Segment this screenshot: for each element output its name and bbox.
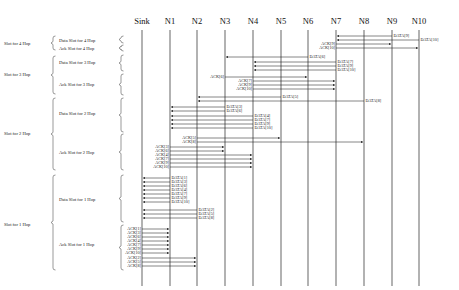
lifelines xyxy=(142,30,419,286)
message-label: ACK[8] xyxy=(182,139,196,144)
message-label: DATA[6] xyxy=(310,54,326,59)
message-label: DATA[6] xyxy=(227,108,243,113)
message-label: DATA[9] xyxy=(394,33,410,38)
brace-icon xyxy=(119,36,124,43)
brace-icon xyxy=(119,98,124,132)
node-label-sink: Sink xyxy=(134,16,150,26)
message-label: DATA[5] xyxy=(283,94,299,99)
brace-icon xyxy=(51,36,56,50)
node-label-n5: N5 xyxy=(276,16,286,26)
slot-label: Data Slot for 4 Hop xyxy=(59,38,96,43)
brace-icon xyxy=(119,45,124,51)
node-label-n9: N9 xyxy=(387,16,397,26)
message-label: ACK[10] xyxy=(319,45,335,50)
slot-group-label: Slot for 1 Hop xyxy=(4,222,31,227)
brace-icon xyxy=(119,74,124,95)
slot-label: Ack Slot for 1 Hop xyxy=(59,242,95,247)
message-label: DATA[10] xyxy=(338,67,356,72)
brace-icon xyxy=(119,175,124,222)
node-label-n4: N4 xyxy=(248,16,259,26)
slot-group-label: Slot for 3 Hop xyxy=(4,72,31,77)
slot-label: Data Slot for 1 Hop xyxy=(59,197,96,202)
slot-group-label: Slot for 4 Hop xyxy=(4,41,31,46)
brace-icon xyxy=(119,134,124,170)
sequence-diagram: SinkN1N2N3N4N5N6N7N8N9N10 Slot for 4 Hop… xyxy=(0,0,459,290)
brace-icon xyxy=(51,98,56,170)
slot-label: Ack Slot for 4 Hop xyxy=(59,46,95,51)
slot-label: Ack Slot for 3 Hop xyxy=(59,82,95,87)
brace-icon xyxy=(51,56,56,94)
message-label: ACK[10] xyxy=(153,164,169,169)
node-label-n2: N2 xyxy=(192,16,202,26)
node-label-n10: N10 xyxy=(412,16,427,26)
message-label: DATA[10] xyxy=(421,37,439,42)
node-label-n8: N8 xyxy=(359,16,369,26)
message-label: DATA[10] xyxy=(255,125,273,130)
slot-label: Data Slot for 2 Hop xyxy=(59,111,96,116)
brace-icon xyxy=(119,225,124,270)
slot-label: Ack Slot for 2 Hop xyxy=(59,150,95,155)
node-label-n6: N6 xyxy=(303,16,313,26)
brace-icon xyxy=(119,55,124,71)
message-label: DATA[8] xyxy=(199,215,215,220)
slot-label: Data Slot for 3 Hop xyxy=(59,60,96,65)
node-label-n7: N7 xyxy=(331,16,341,26)
node-label-n1: N1 xyxy=(165,16,175,26)
message-label: ACK[8] xyxy=(127,263,141,268)
message-label: DATA[8] xyxy=(366,98,382,103)
node-label-n3: N3 xyxy=(220,16,230,26)
message-label: ACK[10] xyxy=(236,86,252,91)
brace-icon xyxy=(51,175,56,270)
slot-labels: Slot for 4 HopData Slot for 4 HopAck Slo… xyxy=(4,36,124,270)
message-label: ACK[6] xyxy=(210,74,224,79)
node-headers: SinkN1N2N3N4N5N6N7N8N9N10 xyxy=(134,16,426,26)
slot-group-label: Slot for 2 Hop xyxy=(4,131,31,136)
message-label: DATA[10] xyxy=(172,199,190,204)
